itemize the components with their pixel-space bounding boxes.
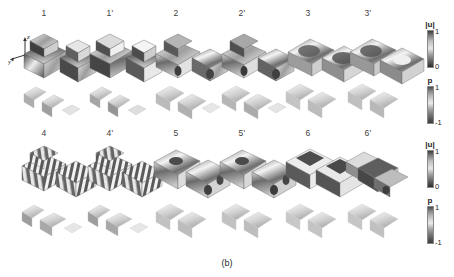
mode-cell-4p-displacement <box>88 146 162 197</box>
colorbar-displacement-tick-bottom: 0 <box>435 63 439 70</box>
mode-cell-1-pressure <box>24 87 80 117</box>
mode-cell-4-pressure <box>22 205 82 236</box>
mode-cell-4-displacement <box>22 146 96 197</box>
colorbar-displacement-2-tick-bottom: 0 <box>435 183 439 190</box>
mode-label-5p: 5' <box>218 128 266 138</box>
mode-label-4: 4 <box>20 128 68 138</box>
colorbar-displacement-tick-top: 1 <box>435 28 439 35</box>
mode-label-3p: 3' <box>344 8 392 18</box>
colorbar-displacement-2-tick-top: 1 <box>435 148 439 155</box>
colorbar-displacement: |u| 1 0 <box>410 20 450 68</box>
mode-cell-6p-displacement <box>346 152 408 197</box>
mode-cell-6-pressure <box>286 204 336 238</box>
colorbar-displacement-2-bar <box>427 150 434 188</box>
mode-label-1p: 1' <box>86 8 134 18</box>
mode-cell-4p-pressure <box>88 205 148 236</box>
mode-block-row-0: 1 1' 2 2' 3 3' <box>0 4 454 124</box>
colorbar-pressure-2-tick-bottom: -1 <box>435 239 442 246</box>
mode-cell-2-displacement <box>156 34 228 81</box>
mode-cell-2p-displacement <box>222 34 294 81</box>
mode-render-row-1 <box>0 126 454 248</box>
mode-cell-5p-displacement <box>220 150 296 198</box>
mode-cell-1-displacement <box>24 34 96 82</box>
figure-panel-b: z x y 1 1' 2 2' 3 3' <box>0 0 454 277</box>
colorbar-pressure-bar <box>427 86 434 124</box>
mode-label-2p: 2' <box>218 8 266 18</box>
mode-label-2: 2 <box>152 8 200 18</box>
mode-cell-2p-pressure <box>222 86 286 119</box>
mode-label-6p: 6' <box>344 128 392 138</box>
colorbar-displacement-2: |u| 1 0 <box>410 140 450 188</box>
mode-cell-1p-displacement <box>90 34 162 82</box>
mode-cell-5p-pressure <box>222 204 272 238</box>
colorbar-pressure-tick-bottom: -1 <box>435 119 442 126</box>
mode-cell-3-pressure <box>286 84 336 118</box>
mode-cell-5-displacement <box>154 150 230 198</box>
mode-render-row-0 <box>0 4 454 124</box>
colorbar-pressure-2-bar <box>427 206 434 244</box>
figure-caption: (b) <box>0 258 454 268</box>
mode-label-3: 3 <box>284 8 332 18</box>
mode-block-row-1: 4 4' 5 5' 6 6' <box>0 126 454 248</box>
mode-cell-5-pressure <box>156 204 206 238</box>
mode-label-1: 1 <box>20 8 68 18</box>
colorbar-pressure-tick-top: 1 <box>435 84 439 91</box>
mode-label-6: 6 <box>284 128 332 138</box>
mode-label-4p: 4' <box>86 128 134 138</box>
colorbar-pressure: p 1 -1 <box>410 76 450 124</box>
mode-cell-3p-pressure <box>348 84 398 118</box>
mode-cell-6p-pressure <box>348 204 398 238</box>
mode-cell-2-pressure <box>156 86 220 119</box>
colorbar-pressure-2-tick-top: 1 <box>435 204 439 211</box>
mode-label-5: 5 <box>152 128 200 138</box>
colorbar-group-row-1: |u| 1 0 p 1 -1 <box>410 140 450 244</box>
colorbar-pressure-2: p 1 -1 <box>410 196 450 244</box>
mode-cell-1p-pressure <box>90 87 146 117</box>
colorbar-displacement-bar <box>427 30 434 68</box>
colorbar-group-row-0: |u| 1 0 p 1 -1 <box>410 20 450 124</box>
